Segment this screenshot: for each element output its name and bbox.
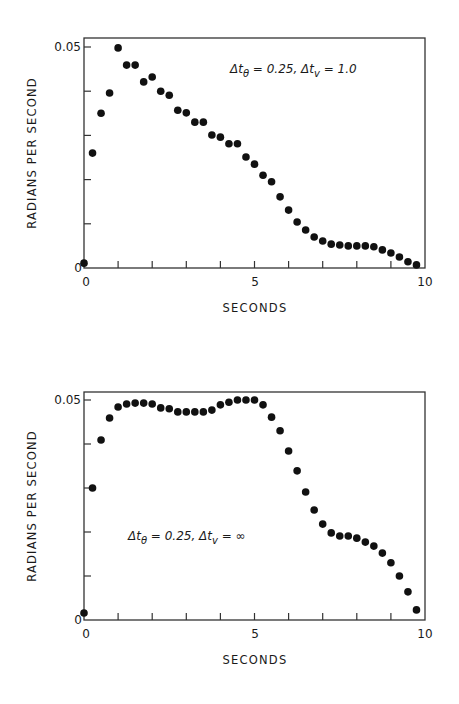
- data-point: [387, 559, 395, 567]
- data-point: [268, 413, 276, 421]
- data-point: [344, 242, 352, 250]
- data-point: [370, 243, 378, 251]
- data-point: [106, 89, 114, 97]
- data-point: [174, 408, 182, 416]
- data-point: [242, 153, 250, 161]
- data-point: [200, 408, 208, 416]
- y-tick-label-top: 0.05: [54, 393, 81, 407]
- x-axis-label: SECONDS: [223, 301, 288, 315]
- data-point: [259, 171, 267, 179]
- data-point: [396, 572, 404, 580]
- data-point: [276, 427, 284, 435]
- data-point: [157, 87, 165, 95]
- chart-top: 0.05 0 0 5 10 SECONDS RADIANS PER SECOND…: [25, 38, 433, 315]
- data-point: [379, 246, 387, 254]
- data-point: [131, 399, 139, 407]
- data-point: [396, 253, 404, 261]
- x-tick-label-0: 0: [82, 275, 90, 289]
- data-point: [268, 178, 276, 186]
- data-point: [217, 133, 225, 141]
- data-point: [353, 534, 361, 542]
- data-point: [165, 91, 173, 99]
- y-axis-label: RADIANS PER SECOND: [25, 430, 39, 582]
- data-point: [89, 484, 97, 492]
- data-point: [404, 258, 412, 266]
- data-point: [285, 447, 293, 455]
- data-point: [319, 237, 327, 245]
- data-point: [123, 61, 131, 69]
- data-point: [302, 488, 310, 496]
- data-point: [404, 588, 412, 596]
- data-point: [234, 140, 242, 148]
- data-point: [97, 436, 105, 444]
- data-point: [225, 398, 233, 406]
- data-point: [131, 61, 139, 69]
- data-point: [97, 110, 105, 118]
- data-point: [106, 414, 114, 422]
- chart-bottom: 0.05 0 0 5 10 SECONDS RADIANS PER SECOND…: [25, 392, 433, 667]
- data-point: [302, 226, 310, 234]
- data-point: [217, 401, 225, 409]
- data-point: [251, 396, 259, 404]
- data-point: [344, 532, 352, 540]
- chart-annotation: Δtθ = 0.25, Δtv = 1.0: [229, 62, 357, 79]
- data-point: [148, 73, 156, 81]
- plot-frame: [84, 392, 425, 620]
- data-point: [310, 233, 318, 241]
- data-point: [362, 538, 370, 546]
- data-point: [387, 249, 395, 257]
- x-tick-label-10: 10: [417, 627, 432, 641]
- data-point: [191, 408, 199, 416]
- data-point: [327, 240, 335, 248]
- y-tick-label-zero: 0: [74, 613, 82, 627]
- data-point: [174, 106, 182, 114]
- data-point: [413, 606, 421, 614]
- axis-ticks: [84, 400, 391, 620]
- data-point: [293, 467, 301, 475]
- y-tick-label-zero: 0: [74, 261, 82, 275]
- data-point: [234, 396, 242, 404]
- data-point: [140, 399, 148, 407]
- data-point: [319, 520, 327, 528]
- data-point: [276, 193, 284, 201]
- data-point: [251, 160, 259, 168]
- data-point: [285, 206, 293, 214]
- x-tick-label-10: 10: [417, 275, 432, 289]
- x-tick-label-5: 5: [251, 627, 259, 641]
- x-tick-label-5: 5: [251, 275, 259, 289]
- data-point: [208, 406, 216, 414]
- data-point: [89, 149, 97, 157]
- axis-ticks: [84, 47, 391, 268]
- data-point: [148, 400, 156, 408]
- y-axis-label: RADIANS PER SECOND: [25, 77, 39, 229]
- data-points: [80, 44, 420, 269]
- data-point: [123, 400, 131, 408]
- data-point: [379, 549, 387, 557]
- data-point: [183, 109, 191, 117]
- data-point: [208, 131, 216, 139]
- data-point: [157, 404, 165, 412]
- data-points: [80, 396, 420, 617]
- chart-annotation: Δtθ = 0.25, Δtv = ∞: [127, 529, 246, 546]
- data-point: [191, 118, 199, 126]
- y-tick-label-top: 0.05: [54, 40, 81, 54]
- data-point: [225, 140, 233, 148]
- data-point: [259, 401, 267, 409]
- data-point: [140, 78, 148, 86]
- x-axis-label: SECONDS: [223, 653, 288, 667]
- data-point: [327, 529, 335, 537]
- data-point: [336, 532, 344, 540]
- data-point: [353, 242, 361, 250]
- data-point: [165, 405, 173, 413]
- data-point: [242, 396, 250, 404]
- data-point: [114, 403, 122, 411]
- data-point: [200, 118, 208, 126]
- data-point: [310, 506, 318, 514]
- figure: 0.05 0 0 5 10 SECONDS RADIANS PER SECOND…: [0, 0, 459, 704]
- data-point: [114, 44, 122, 52]
- data-point: [370, 542, 378, 550]
- x-tick-label-0: 0: [82, 627, 90, 641]
- data-point: [413, 261, 421, 269]
- data-point: [183, 408, 191, 416]
- data-point: [362, 242, 370, 250]
